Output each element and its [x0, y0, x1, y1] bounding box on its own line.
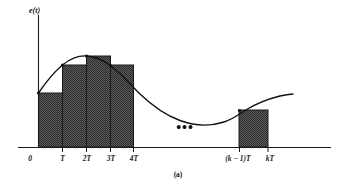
sample-point-3 — [109, 64, 112, 67]
zero-order-hold-figure: e(t) 0 T 2T 3T 4T (k − 1)T kT ••• (a) — [0, 0, 352, 185]
x-tick-label-4T: 4T — [129, 154, 139, 163]
hold-bars-group — [39, 56, 269, 147]
sample-point-k-minus-1 — [238, 109, 241, 112]
hold-bar-k-minus-1 — [239, 110, 268, 147]
hold-bar-0 — [39, 93, 63, 147]
figure-caption: (a) — [174, 170, 183, 179]
x-tick-label-kT: kT — [266, 154, 275, 163]
sample-point-2 — [85, 54, 88, 57]
x-tick-label-2T: 2T — [82, 154, 92, 163]
hold-bar-3 — [111, 65, 134, 147]
x-tick-label-3T: 3T — [106, 154, 116, 163]
figure-container: e(t) 0 T 2T 3T 4T (k − 1)T kT ••• (a) — [0, 0, 352, 185]
x-tick-label-T: T — [60, 154, 65, 163]
sample-point-1 — [61, 63, 64, 66]
x-axis-ticks — [63, 148, 269, 153]
hold-bar-2 — [87, 56, 111, 147]
y-axis-label: e(t) — [29, 6, 40, 15]
x-tick-label-k-minus-1-T: (k − 1)T — [225, 154, 251, 163]
x-tick-label-0: 0 — [28, 154, 32, 163]
ellipsis-marker: ••• — [176, 120, 194, 135]
hold-bar-1 — [63, 65, 87, 147]
